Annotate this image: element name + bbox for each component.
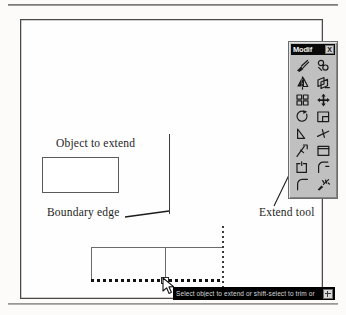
label-extend-tool: Extend tool: [259, 206, 315, 218]
explode-tool[interactable]: [315, 177, 333, 193]
label-object-to-extend: Object to extend: [56, 137, 135, 149]
page-rule-top: [8, 4, 338, 6]
offset-tool[interactable]: [315, 75, 333, 91]
lower-shape-middle-edge: [165, 247, 166, 280]
figure-frame: Object to extend Boundary edge Extend to…: [20, 19, 323, 299]
lower-shape-top-edge: [91, 247, 223, 248]
figure-page: Object to extend Boundary edge Extend to…: [0, 0, 346, 315]
array-tool[interactable]: [294, 92, 312, 108]
lower-shape-left-edge: [91, 247, 92, 280]
scale-tool[interactable]: [315, 109, 333, 125]
label-boundary-edge: Boundary edge: [47, 206, 120, 218]
close-icon[interactable]: X: [325, 45, 334, 54]
trim-tool[interactable]: [294, 143, 312, 159]
selected-object-edge: [91, 279, 223, 282]
break-at-point-tool[interactable]: [294, 160, 312, 176]
palette-tool-grid: [292, 57, 334, 195]
modify-toolbar-palette[interactable]: Modif X: [288, 41, 338, 199]
extend-tool[interactable]: [315, 143, 333, 159]
object-to-extend-rectangle: [42, 157, 119, 193]
boundary-edge-dotted-line: [222, 226, 224, 294]
maximize-icon[interactable]: [323, 289, 333, 299]
lower-shape-group: [91, 247, 223, 282]
lengthen-tool[interactable]: [315, 126, 333, 142]
command-prompt-bar: Select object to extend or shift-select …: [173, 287, 335, 300]
palette-title: Modif: [292, 45, 325, 54]
leader-line-boundary-edge: [125, 211, 169, 218]
break-tool[interactable]: [315, 160, 333, 176]
palette-titlebar[interactable]: Modif X: [291, 44, 335, 55]
rotate-tool[interactable]: [294, 109, 312, 125]
erase-tool[interactable]: [294, 58, 312, 74]
chamfer-tool[interactable]: [294, 177, 312, 193]
stretch-tool[interactable]: [294, 126, 312, 142]
boundary-edge-line: [169, 134, 170, 214]
mirror-tool[interactable]: [294, 75, 312, 91]
command-prompt-text: Select object to extend or shift-select …: [176, 290, 320, 297]
page-rule-bottom: [8, 303, 338, 305]
copy-object-tool[interactable]: [315, 58, 333, 74]
move-tool[interactable]: [315, 92, 333, 108]
